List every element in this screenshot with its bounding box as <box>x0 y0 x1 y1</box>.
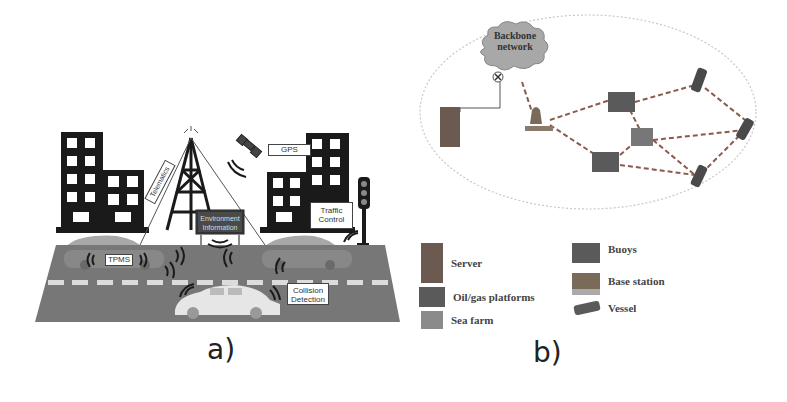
panel-b-maritime-network: Backbone network Server Oil/gas platform… <box>400 0 787 402</box>
sea-farm-icon <box>421 311 443 329</box>
vessel-node <box>735 117 755 141</box>
panel-a-vehicular-network: Telematics GPS Environment Information T… <box>0 0 400 402</box>
vessel-node <box>690 164 708 188</box>
base-station-icon <box>525 107 553 131</box>
legend-item-sea-farm: Sea farm <box>421 311 493 329</box>
panel-b-label: b) <box>533 336 562 369</box>
legend-item-vessel: Vessel <box>574 302 636 314</box>
vessel-icon <box>573 300 601 315</box>
gps-tag: GPS <box>268 144 311 156</box>
collision-detection-tag: Collision Detection <box>287 283 329 305</box>
satellite-icon <box>236 134 261 157</box>
legend-item-buoys: Buoys <box>572 243 637 263</box>
tpms-tag: TPMS <box>105 254 133 266</box>
buoy-icon <box>572 243 600 263</box>
oil-gas-platform-icon <box>419 287 445 307</box>
server-icon <box>440 107 460 147</box>
coverage-ellipse <box>420 15 756 209</box>
backbone-network-label: Backbone network <box>484 30 546 52</box>
legend-item-oil-gas-platforms: Oil/gas platforms <box>419 287 535 307</box>
sea-farm-node <box>631 128 653 146</box>
legend-item-base-station: Base station <box>572 267 665 295</box>
vehicular-scene-illustration <box>0 0 400 402</box>
maritime-network-diagram <box>400 0 787 230</box>
server-icon <box>421 243 443 283</box>
panel-a-label: a) <box>207 333 235 366</box>
legend-item-server: Server <box>421 243 482 283</box>
base-station-icon <box>572 267 600 295</box>
oil-gas-platform-node <box>592 152 619 172</box>
traffic-light-icon <box>357 177 370 247</box>
environment-information-tag: Environment Information <box>197 211 243 233</box>
buoy-node <box>608 92 635 112</box>
traffic-control-tag: Traffic Control <box>310 202 353 229</box>
